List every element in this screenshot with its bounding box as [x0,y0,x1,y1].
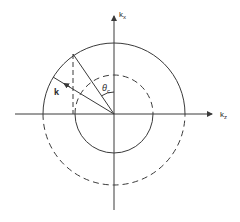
kz-axis-label: kz [220,110,227,120]
k-vector-arrow [64,84,70,88]
critical-angle-line [73,54,114,114]
wave-vector-diagram: kx kz k θc [0,0,240,222]
k-vector-label: k [54,87,60,97]
kx-axis-label: kx [119,10,126,20]
theta-c-label: θc [102,83,110,94]
